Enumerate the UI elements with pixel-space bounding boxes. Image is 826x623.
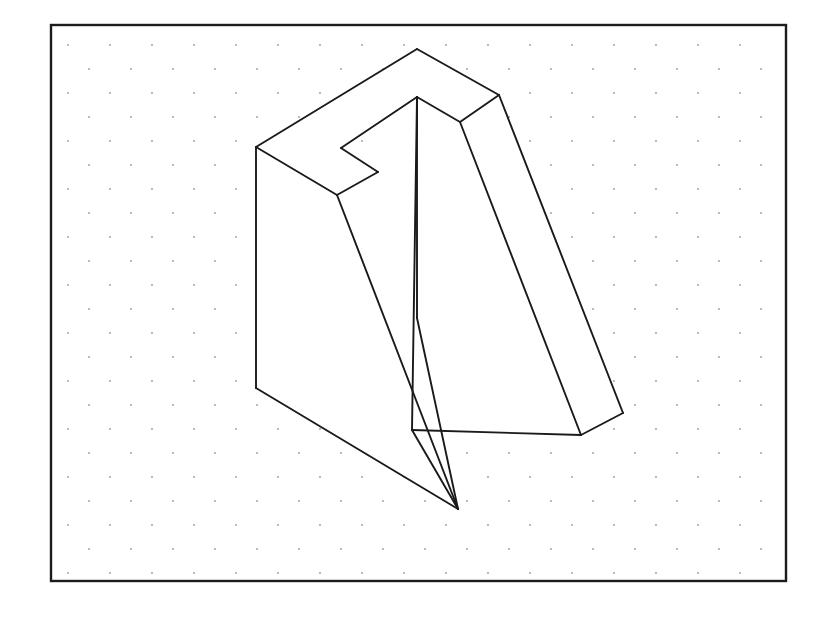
grid-dot: [319, 572, 321, 574]
grid-dot: [613, 572, 615, 574]
grid-dot: [760, 308, 762, 310]
grid-dot: [697, 236, 699, 238]
grid-dot: [67, 92, 69, 94]
grid-dot: [256, 452, 258, 454]
grid-dot: [592, 308, 594, 310]
grid-dot: [613, 44, 615, 46]
grid-dot: [445, 524, 447, 526]
grid-dot: [88, 260, 90, 262]
grid-dot: [739, 140, 741, 142]
grid-dot: [613, 284, 615, 286]
grid-dot: [193, 332, 195, 334]
grid-dot: [67, 332, 69, 334]
grid-dot: [214, 116, 216, 118]
grid-dot: [151, 188, 153, 190]
grid-dot: [634, 548, 636, 550]
grid-dot: [592, 452, 594, 454]
grid-dot: [214, 500, 216, 502]
grid-dot: [676, 260, 678, 262]
grid-dot: [550, 548, 552, 550]
grid-dot: [151, 572, 153, 574]
grid-dot: [571, 236, 573, 238]
grid-dot: [613, 524, 615, 526]
isometric-drawing: [0, 0, 826, 623]
grid-dot: [235, 428, 237, 430]
grid-dot: [613, 332, 615, 334]
grid-dot: [508, 548, 510, 550]
grid-dot: [151, 44, 153, 46]
grid-dot: [571, 140, 573, 142]
grid-dot: [256, 548, 258, 550]
grid-dot: [193, 428, 195, 430]
grid-dot: [529, 524, 531, 526]
grid-dot: [214, 164, 216, 166]
grid-dot: [634, 356, 636, 358]
grid-dot: [235, 332, 237, 334]
grid-dot: [550, 212, 552, 214]
grid-dot: [109, 44, 111, 46]
grid-dot: [613, 140, 615, 142]
grid-dot: [550, 164, 552, 166]
grid-dot: [130, 116, 132, 118]
grid-dot: [718, 164, 720, 166]
grid-dot: [634, 500, 636, 502]
grid-dot: [760, 548, 762, 550]
grid-dot: [88, 500, 90, 502]
grid-dot: [235, 284, 237, 286]
grid-dot: [655, 332, 657, 334]
grid-dot: [277, 572, 279, 574]
grid-dot: [172, 452, 174, 454]
grid-dot: [571, 524, 573, 526]
grid-dot: [613, 92, 615, 94]
grid-dot: [592, 548, 594, 550]
grid-dot: [466, 68, 468, 70]
grid-dot: [634, 116, 636, 118]
grid-dot: [739, 92, 741, 94]
grid-dot: [235, 92, 237, 94]
grid-dot: [718, 500, 720, 502]
grid-dot: [130, 260, 132, 262]
grid-dot: [172, 548, 174, 550]
grid-dot: [592, 116, 594, 118]
grid-dot: [739, 44, 741, 46]
grid-dot: [739, 476, 741, 478]
grid-dot: [760, 68, 762, 70]
grid-dot: [718, 212, 720, 214]
grid-dot: [466, 500, 468, 502]
grid-dot: [508, 68, 510, 70]
grid-dot: [676, 356, 678, 358]
grid-dot: [739, 332, 741, 334]
grid-dot: [109, 140, 111, 142]
grid-dot: [130, 404, 132, 406]
grid-dot: [319, 476, 321, 478]
grid-dot: [67, 524, 69, 526]
grid-dot: [529, 572, 531, 574]
grid-dot: [193, 380, 195, 382]
grid-dot: [760, 164, 762, 166]
grid-dot: [235, 476, 237, 478]
grid-dot: [655, 140, 657, 142]
grid-dot: [655, 284, 657, 286]
grid-dot: [739, 428, 741, 430]
grid-dot: [88, 68, 90, 70]
grid-dot: [676, 308, 678, 310]
grid-dot: [487, 476, 489, 478]
grid-dot: [655, 476, 657, 478]
grid-dot: [193, 140, 195, 142]
grid-dot: [67, 476, 69, 478]
grid-dot: [655, 44, 657, 46]
grid-dot: [130, 308, 132, 310]
grid-dot: [655, 572, 657, 574]
grid-dot: [298, 116, 300, 118]
grid-dot: [298, 68, 300, 70]
grid-dot: [697, 92, 699, 94]
grid-dot: [193, 188, 195, 190]
grid-dot: [739, 572, 741, 574]
grid-dot: [718, 68, 720, 70]
grid-dot: [214, 308, 216, 310]
grid-dot: [361, 572, 363, 574]
grid-dot: [613, 428, 615, 430]
grid-dot: [592, 68, 594, 70]
grid-dot: [760, 404, 762, 406]
grid-dot: [109, 380, 111, 382]
